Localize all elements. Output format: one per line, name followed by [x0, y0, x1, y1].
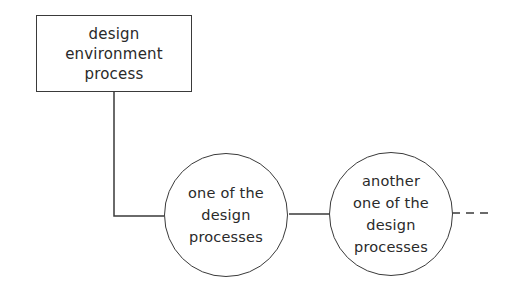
design-environment-process-box: design environment process — [36, 15, 192, 92]
design-process-circle-1: one of the design processes — [164, 153, 288, 277]
circle-1-label-line-3: processes — [189, 226, 263, 248]
circle-2-label-line-3: design — [366, 214, 415, 236]
circle-1-label-line-2: design — [201, 204, 250, 226]
env-box-label-line-3: process — [84, 64, 143, 84]
env-box-label-line-2: environment — [65, 44, 163, 64]
connector-env-to-process — [114, 92, 164, 216]
circle-1-label-line-1: one of the — [188, 182, 264, 204]
env-box-label-line-1: design — [89, 24, 140, 44]
design-process-circle-2: another one of the design processes — [329, 152, 453, 276]
circle-2-label-line-4: processes — [354, 236, 428, 258]
diagram-canvas: design environment process one of the de… — [0, 0, 513, 302]
circle-2-label-line-1: another — [362, 170, 420, 192]
circle-2-label-line-2: one of the — [353, 192, 429, 214]
